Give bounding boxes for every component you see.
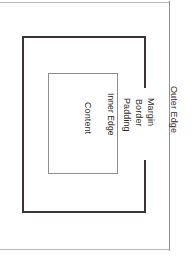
border-box-right-segment-bottom [144, 160, 146, 213]
box-model-diagram: Outer Edge Margin Border Padding Inner E… [0, 0, 194, 264]
label-padding: Padding [122, 98, 131, 132]
label-content: Content [83, 102, 92, 134]
border-box-right-segment-top [144, 36, 146, 88]
label-inner-edge: Inner Edge [106, 93, 115, 136]
label-outer-edge: Outer Edge [169, 86, 178, 133]
label-margin: Margin [146, 98, 155, 126]
label-border: Border [134, 99, 143, 127]
